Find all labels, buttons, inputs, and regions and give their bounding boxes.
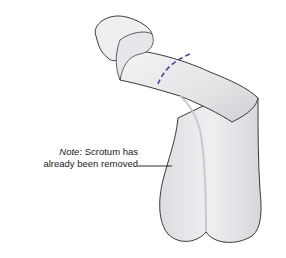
note-prefix: Note: bbox=[59, 146, 82, 157]
annotation-text: Note: Scrotum has already been removed bbox=[18, 146, 138, 169]
anatomical-illustration bbox=[0, 0, 286, 258]
shaft-shape bbox=[118, 50, 258, 122]
note-line1: Scrotum has bbox=[85, 146, 138, 157]
note-line2: already been removed bbox=[18, 158, 138, 170]
